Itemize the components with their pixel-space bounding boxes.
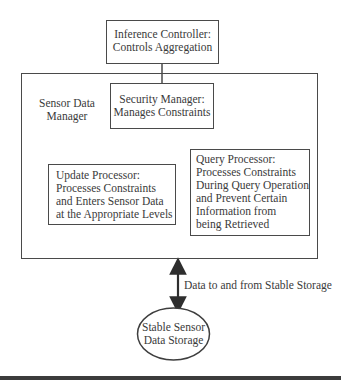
inference-controller-desc: Controls Aggregation (106, 41, 219, 54)
sensor-data-manager-label-line2: Manager (30, 110, 104, 123)
update-processor-line: Processes Constraints (56, 182, 156, 195)
query-processor-line: Information from (196, 205, 276, 218)
inference-controller-title: Inference Controller: (106, 28, 219, 41)
security-manager-title: Security Manager: (110, 93, 214, 106)
query-processor-line: Query Processor: (196, 153, 276, 166)
query-processor-line: and Prevent Certain (196, 192, 287, 205)
arrow-label: Data to and from Stable Storage (184, 279, 332, 292)
query-processor-line: During Query Operation (196, 179, 309, 192)
update-processor-line: Update Processor: (56, 169, 140, 182)
query-processor-line: being Retrieved (196, 218, 269, 231)
query-processor-line: Processes Constraints (196, 166, 296, 179)
stable-storage-line1: Stable Sensor (137, 321, 210, 334)
security-manager-desc: Manages Constraints (110, 106, 214, 119)
stable-storage-line2: Data Storage (137, 334, 210, 347)
sensor-data-manager-label-line1: Sensor Data (30, 97, 104, 110)
bottom-rule-divider (0, 376, 341, 380)
update-processor-line: and Enters Sensor Data (56, 195, 164, 208)
update-processor-line: at the Appropriate Levels (56, 208, 173, 221)
